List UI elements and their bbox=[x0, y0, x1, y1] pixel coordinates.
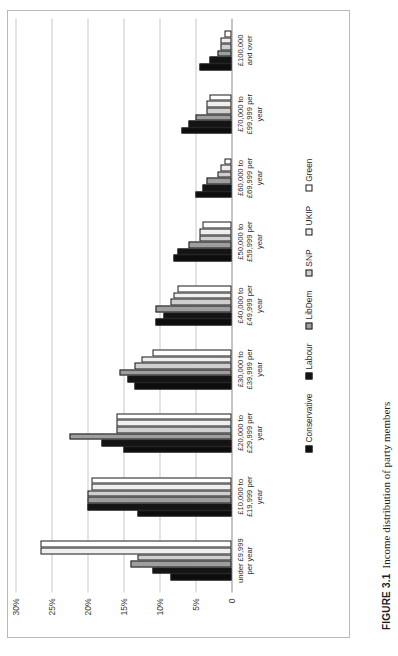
bar-group bbox=[15, 18, 231, 82]
bar-group bbox=[15, 337, 231, 401]
bar-ukip bbox=[206, 100, 231, 107]
rotated-chart-wrapper: 30%25%20%15%10%5%0 under £9,999 per year… bbox=[7, 10, 350, 638]
bar-conservative bbox=[181, 127, 231, 134]
category-label: £40,000 to £49,999 per year bbox=[232, 273, 278, 337]
legend-label: LibDem bbox=[303, 290, 313, 319]
bar-conservative bbox=[137, 510, 231, 517]
bar-snp bbox=[170, 298, 231, 305]
bar-labour bbox=[163, 312, 231, 319]
bar-ukip bbox=[173, 292, 231, 299]
bar-libdem bbox=[217, 50, 231, 57]
bar-snp bbox=[199, 235, 231, 242]
bar-green bbox=[209, 94, 231, 101]
bar-snp bbox=[87, 490, 231, 497]
bar-group bbox=[15, 401, 231, 465]
bar-libdem bbox=[69, 433, 231, 440]
bar-conservative bbox=[123, 446, 231, 453]
y-axis-tick-label: 0 bbox=[226, 598, 236, 638]
bar-labour bbox=[87, 503, 231, 510]
bar-conservative bbox=[199, 63, 231, 70]
bar-libdem bbox=[195, 114, 231, 121]
bar-snp bbox=[220, 43, 231, 50]
bar-groups bbox=[15, 18, 231, 592]
bar-conservative bbox=[170, 573, 231, 580]
category-label: £50,000 to £59,999 per year bbox=[232, 209, 278, 273]
legend-label: Labour bbox=[303, 343, 313, 369]
bar-libdem bbox=[130, 560, 231, 567]
y-axis-tick-label: 30% bbox=[10, 598, 20, 638]
category-label: £20,000 to £29,999 per year bbox=[232, 401, 278, 465]
bar-group bbox=[15, 82, 231, 146]
legend-item: SNP bbox=[303, 249, 313, 276]
figure-page: 30%25%20%15%10%5%0 under £9,999 per year… bbox=[0, 0, 398, 656]
bar-group bbox=[15, 528, 231, 592]
category-label: £100,000 and over bbox=[232, 18, 278, 82]
bar-ukip bbox=[116, 419, 231, 426]
caption-label: FIGURE 3.1 bbox=[381, 574, 392, 630]
legend-swatch-icon bbox=[305, 372, 312, 379]
bar-green bbox=[177, 285, 231, 292]
bar-conservative bbox=[134, 382, 231, 389]
legend-label: SNP bbox=[303, 249, 313, 266]
bar-conservative bbox=[173, 254, 231, 261]
legend-swatch-icon bbox=[305, 184, 312, 191]
legend-swatch-icon bbox=[305, 269, 312, 276]
bar-snp bbox=[116, 426, 231, 433]
bar-ukip bbox=[40, 547, 231, 554]
legend-swatch-icon bbox=[305, 322, 312, 329]
category-label: £60,000 to £69,999 per year bbox=[232, 146, 278, 210]
legend-item: UKIP bbox=[303, 205, 313, 235]
legend-label: Conservative bbox=[303, 393, 313, 442]
figure-caption: FIGURE 3.1 Income distribution of party … bbox=[352, 10, 392, 638]
bar-labour bbox=[202, 184, 231, 191]
bar-ukip bbox=[91, 483, 231, 490]
legend-swatch-icon bbox=[305, 228, 312, 235]
bar-conservative bbox=[195, 191, 231, 198]
bar-labour bbox=[101, 439, 231, 446]
legend-item: Labour bbox=[303, 343, 313, 379]
bar-libdem bbox=[87, 496, 231, 503]
bar-green bbox=[40, 540, 231, 547]
bar-group bbox=[15, 146, 231, 210]
y-axis-tick-label: 5% bbox=[190, 598, 200, 638]
bar-green bbox=[116, 413, 231, 420]
bar-libdem bbox=[119, 369, 231, 376]
bar-labour bbox=[188, 120, 231, 127]
y-axis-tick-label: 20% bbox=[82, 598, 92, 638]
caption-text: Income distribution of party members bbox=[380, 402, 392, 569]
bar-group bbox=[15, 209, 231, 273]
bar-green bbox=[224, 158, 231, 165]
category-label: £10,000 to £19,999 per year bbox=[232, 464, 278, 528]
bar-ukip bbox=[141, 356, 231, 363]
bar-chart: 30%25%20%15%10%5%0 under £9,999 per year… bbox=[7, 10, 350, 638]
bar-snp bbox=[137, 554, 231, 561]
y-axis-tick-label: 10% bbox=[154, 598, 164, 638]
bar-labour bbox=[209, 56, 231, 63]
legend-label: UKIP bbox=[303, 205, 313, 225]
bar-group bbox=[15, 273, 231, 337]
bar-ukip bbox=[220, 37, 231, 44]
legend-label: Green bbox=[303, 158, 313, 181]
bar-conservative bbox=[155, 318, 231, 325]
bar-labour bbox=[127, 375, 231, 382]
category-label: under £9,999 per year bbox=[232, 528, 278, 592]
category-label: £70,000 to £99,999 per year bbox=[232, 82, 278, 146]
y-axis-tick-label: 15% bbox=[118, 598, 128, 638]
bar-ukip bbox=[199, 228, 231, 235]
bar-green bbox=[152, 349, 231, 356]
y-axis-tick-label: 25% bbox=[46, 598, 56, 638]
bar-ukip bbox=[220, 164, 231, 171]
bar-labour bbox=[152, 567, 231, 574]
bar-green bbox=[224, 30, 231, 37]
bar-snp bbox=[217, 171, 231, 178]
category-label: £30,000 to £39,999 per year bbox=[232, 337, 278, 401]
bar-libdem bbox=[155, 305, 231, 312]
chart-legend: ConservativeLabourLibDemSNPUKIPGreen bbox=[300, 18, 316, 592]
bar-green bbox=[202, 221, 231, 228]
bar-group bbox=[15, 464, 231, 528]
bar-libdem bbox=[206, 177, 231, 184]
legend-item: Conservative bbox=[303, 393, 313, 452]
bar-libdem bbox=[188, 241, 231, 248]
bar-snp bbox=[206, 107, 231, 114]
bar-snp bbox=[134, 362, 231, 369]
